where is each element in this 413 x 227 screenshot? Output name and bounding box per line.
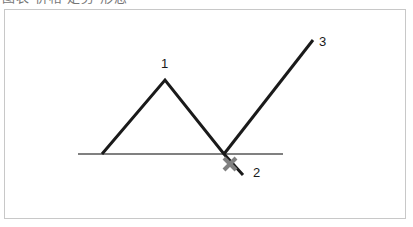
- breakout-rally-line: [224, 40, 313, 154]
- price-path-line: [102, 80, 243, 175]
- chart-canvas: [0, 0, 413, 227]
- point-label-1: 1: [161, 57, 168, 70]
- point-label-3: 3: [319, 35, 326, 48]
- screenshot-root: 图表 价格 走势 形态 1 2 3: [0, 0, 413, 227]
- point-label-2: 2: [253, 166, 260, 179]
